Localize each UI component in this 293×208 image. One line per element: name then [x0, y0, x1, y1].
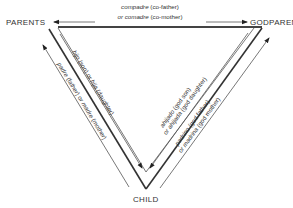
kinship-triangle-diagram: compadre (co-father) or comadre (co-moth…	[0, 0, 293, 208]
top-label-line1: compadre (co-father)	[121, 3, 179, 10]
left-edge	[43, 28, 146, 189]
top-label-line2: or comadre (co-mother)	[118, 13, 183, 20]
node-child: CHILD	[133, 195, 159, 204]
arrow-to-child-right-icon	[150, 33, 248, 168]
top-edge	[54, 22, 262, 27]
node-godparents: GODPARENTS	[250, 18, 293, 27]
left-inner-label: hijo (son) or hija (daughter)	[71, 49, 116, 116]
node-parents: PARENTS	[6, 18, 45, 27]
